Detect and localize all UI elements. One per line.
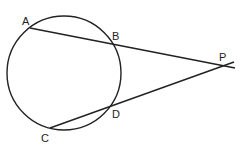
point-label-b: B [112, 30, 119, 42]
circle [7, 16, 121, 130]
point-label-p: P [219, 51, 226, 63]
secant-line-ab-p [30, 28, 235, 68]
secant-diagram: A B C D P [0, 0, 251, 154]
point-label-d: D [112, 108, 120, 120]
secant-line-cd-p [50, 62, 234, 128]
point-label-a: A [22, 15, 30, 27]
point-label-c: C [41, 132, 49, 144]
